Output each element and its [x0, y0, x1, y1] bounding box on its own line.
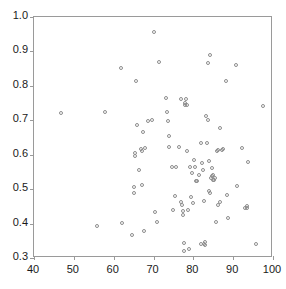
data-point — [164, 96, 168, 100]
data-points-layer — [34, 17, 271, 256]
x-tick-label: 40 — [18, 264, 48, 275]
x-tick-label: 70 — [138, 264, 168, 275]
data-point — [208, 191, 212, 195]
data-point — [254, 242, 258, 246]
data-point — [207, 159, 211, 163]
data-point — [246, 160, 250, 164]
data-point — [211, 178, 215, 182]
data-point — [142, 229, 146, 233]
data-point — [192, 158, 196, 162]
data-point — [202, 199, 206, 203]
y-tick-label: 0.3 — [0, 251, 28, 262]
y-tick-label: 1.0 — [0, 10, 28, 21]
data-point — [201, 168, 205, 172]
y-tick-label: 0.5 — [0, 182, 28, 193]
x-tick-label: 100 — [257, 264, 286, 275]
data-point — [179, 97, 183, 101]
data-point — [167, 145, 171, 149]
data-point — [103, 110, 107, 114]
x-tick — [154, 256, 155, 260]
data-point — [171, 208, 175, 212]
data-point — [182, 241, 186, 245]
data-point — [224, 79, 228, 83]
y-tick — [30, 17, 34, 18]
data-point — [119, 66, 123, 70]
y-tick — [30, 51, 34, 52]
data-point — [153, 210, 157, 214]
data-point — [132, 191, 136, 195]
data-point — [205, 141, 209, 145]
data-point — [218, 200, 222, 204]
data-point — [186, 208, 190, 212]
data-point — [150, 118, 154, 122]
data-point — [135, 123, 139, 127]
scatter-plot-figure: 0.30.40.50.60.70.80.91.0 405060708090100 — [0, 0, 286, 289]
y-tick — [30, 224, 34, 225]
data-point — [95, 224, 99, 228]
data-point — [225, 193, 229, 197]
data-point — [152, 30, 156, 34]
data-point — [206, 118, 210, 122]
x-tick — [233, 256, 234, 260]
data-point — [141, 130, 145, 134]
data-point — [166, 119, 170, 123]
data-point — [173, 194, 177, 198]
data-point — [167, 134, 171, 138]
data-point — [165, 110, 169, 114]
data-point — [134, 79, 138, 83]
data-point — [185, 149, 189, 153]
data-point — [177, 145, 181, 149]
x-tick-label: 60 — [98, 264, 128, 275]
data-point — [59, 111, 63, 115]
x-tick — [114, 256, 115, 260]
data-point — [240, 146, 244, 150]
x-tick — [74, 256, 75, 260]
data-point — [181, 213, 185, 217]
y-tick — [30, 189, 34, 190]
data-point — [190, 171, 194, 175]
data-point — [245, 206, 249, 210]
data-point — [226, 216, 230, 220]
data-point — [187, 247, 191, 251]
data-point — [184, 97, 188, 101]
data-point — [140, 183, 144, 187]
y-tick — [30, 120, 34, 121]
data-point — [130, 233, 134, 237]
data-point — [181, 209, 185, 213]
y-tick-label: 0.8 — [0, 79, 28, 90]
y-tick-label: 0.9 — [0, 44, 28, 55]
data-point — [193, 165, 197, 169]
data-point — [133, 154, 137, 158]
data-point — [132, 185, 136, 189]
data-point — [206, 61, 210, 65]
x-tick — [34, 256, 35, 260]
y-tick — [30, 86, 34, 87]
data-point — [208, 53, 212, 57]
data-point — [189, 195, 193, 199]
data-point — [200, 161, 204, 165]
x-tick-label: 90 — [217, 264, 247, 275]
data-point — [120, 221, 124, 225]
plot-area — [33, 16, 272, 257]
data-point — [195, 179, 199, 183]
x-tick-label: 80 — [177, 264, 207, 275]
data-point — [155, 220, 159, 224]
data-point — [221, 147, 225, 151]
y-tick-label: 0.6 — [0, 148, 28, 159]
data-point — [218, 126, 222, 130]
data-point — [234, 63, 238, 67]
data-point — [146, 119, 150, 123]
data-point — [191, 201, 195, 205]
x-tick — [193, 256, 194, 260]
data-point — [210, 166, 214, 170]
data-point — [216, 148, 220, 152]
y-tick-label: 0.7 — [0, 113, 28, 124]
data-point — [197, 173, 201, 177]
data-point — [180, 203, 184, 207]
data-point — [182, 249, 186, 253]
data-point — [199, 141, 203, 145]
x-tick — [273, 256, 274, 260]
data-point — [188, 165, 192, 169]
data-point — [214, 220, 218, 224]
x-tick-label: 50 — [58, 264, 88, 275]
